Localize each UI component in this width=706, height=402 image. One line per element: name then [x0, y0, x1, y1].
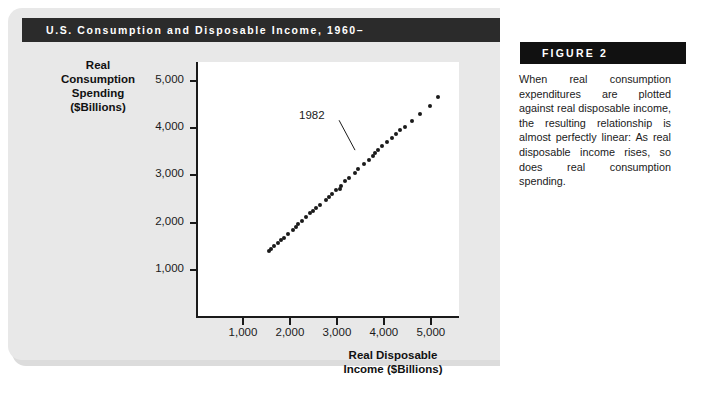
data-point	[385, 140, 389, 144]
x-tick-label: 5,000	[406, 326, 456, 338]
figure-root: U.S. Consumption and Disposable Income, …	[0, 0, 706, 402]
plot-area	[197, 62, 459, 317]
y-tick-label: 4,000	[140, 120, 184, 132]
x-tick-label: 2,000	[265, 326, 315, 338]
y-tick-label: 2,000	[140, 215, 184, 227]
figure-number-bar: FIGURE 2	[520, 42, 686, 64]
y-tick	[190, 127, 197, 129]
x-tick	[242, 318, 244, 325]
x-axis-title: Real DisposableIncome ($Billions)	[318, 348, 468, 376]
y-tick	[190, 269, 197, 271]
y-tick-label: 1,000	[140, 262, 184, 274]
y-tick	[190, 174, 197, 176]
data-point	[380, 144, 384, 148]
data-point	[403, 125, 407, 129]
x-tick-label: 4,000	[359, 326, 409, 338]
y-tick-label: 5,000	[140, 73, 184, 85]
y-tick-label: 3,000	[140, 167, 184, 179]
data-point	[282, 236, 286, 240]
data-point	[394, 132, 398, 136]
x-tick	[383, 318, 385, 325]
data-point	[410, 119, 414, 123]
data-point	[356, 167, 360, 171]
x-tick-label: 1,000	[218, 326, 268, 338]
data-point	[347, 176, 351, 180]
y-axis-line	[196, 62, 198, 318]
figure-caption: When real consumption expenditures are p…	[519, 72, 671, 189]
data-point	[367, 158, 371, 162]
data-point	[318, 203, 322, 207]
y-axis-title: RealConsumptionSpending($Billions)	[55, 58, 141, 114]
x-tick	[430, 318, 432, 325]
annotation-1982: 1982	[299, 109, 325, 121]
data-point	[339, 184, 343, 188]
data-point	[330, 192, 334, 196]
y-tick	[190, 222, 197, 224]
y-tick	[190, 80, 197, 82]
data-point	[300, 219, 304, 223]
figure-number-label: FIGURE 2	[520, 47, 608, 59]
x-tick	[336, 318, 338, 325]
x-axis-line	[196, 316, 459, 318]
scatter-plot: RealConsumptionSpending($Billions) Real …	[0, 0, 500, 402]
x-tick-label: 3,000	[312, 326, 362, 338]
x-tick	[289, 318, 291, 325]
